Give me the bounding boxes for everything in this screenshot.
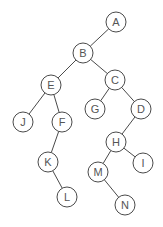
edge-h-m	[103, 151, 111, 164]
node-label: H	[112, 136, 120, 148]
node-label: D	[137, 103, 145, 115]
node-b: B	[73, 43, 93, 63]
edge-d-h	[122, 117, 135, 134]
node-label: L	[64, 191, 70, 203]
node-label: C	[111, 74, 119, 86]
edge-k-l	[53, 171, 62, 188]
edge-a-b	[90, 29, 108, 46]
edge-b-c	[91, 59, 108, 73]
node-label: N	[121, 199, 129, 211]
node-label: G	[91, 103, 100, 115]
node-j: J	[13, 112, 33, 132]
node-m: M	[88, 162, 108, 182]
node-i: I	[133, 153, 153, 173]
edge-e-f	[54, 95, 59, 113]
node-l: L	[57, 187, 77, 207]
node-label: K	[44, 156, 52, 168]
node-label: J	[20, 116, 26, 128]
node-d: D	[131, 99, 151, 119]
node-c: C	[105, 70, 125, 90]
edge-h-i	[124, 148, 135, 157]
node-label: I	[141, 157, 144, 169]
node-label: A	[112, 16, 120, 28]
edge-f-k	[51, 131, 58, 152]
edge-c-d	[122, 87, 135, 101]
tree-nodes: ABECJFGDKLHMIN	[13, 12, 153, 215]
node-label: M	[93, 166, 102, 178]
node-g: G	[85, 99, 105, 119]
node-label: F	[59, 116, 66, 128]
tree-diagram: ABECJFGDKLHMIN	[0, 0, 163, 227]
node-a: A	[106, 12, 126, 32]
node-k: K	[38, 152, 58, 172]
node-n: N	[115, 195, 135, 215]
edge-e-j	[29, 93, 45, 114]
edge-m-n	[104, 180, 118, 198]
edge-b-e	[58, 60, 76, 78]
node-e: E	[41, 75, 61, 95]
node-label: E	[47, 79, 54, 91]
node-f: F	[52, 112, 72, 132]
node-h: H	[106, 132, 126, 152]
edge-c-g	[101, 88, 110, 101]
node-label: B	[79, 47, 86, 59]
